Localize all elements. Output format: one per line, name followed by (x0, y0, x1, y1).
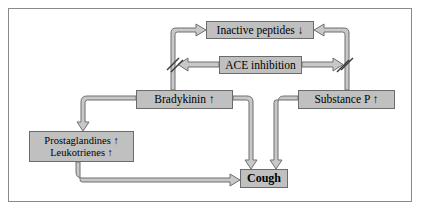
node-cough-label: Cough (247, 172, 281, 185)
edge-bradykinin-to-cough (233, 96, 257, 169)
node-prostaglandines-label-line2: Leukotrienes ↑ (50, 147, 113, 159)
edge-ace-to-substance-p (302, 58, 343, 71)
edge-ace-to-bradykinin (178, 58, 219, 71)
node-inactive-peptides[interactable]: Inactive peptides ↓ (206, 21, 314, 39)
diagram-canvas: Inactive peptides ↓ ACE inhibition Brady… (0, 0, 428, 214)
node-ace-inhibition[interactable]: ACE inhibition (219, 56, 302, 74)
node-prostaglandines-label-line1: Prostaglandines ↑ (44, 135, 118, 147)
edge-bradykinin-to-prostaglandines (77, 96, 136, 131)
edge-prostaglandines-to-cough (76, 162, 240, 186)
node-substance-p-label: Substance P ↑ (314, 93, 378, 106)
edge-substance-p-to-cough (270, 96, 298, 169)
node-bradykinin-label: Bradykinin ↑ (154, 93, 214, 106)
node-ace-inhibition-label: ACE inhibition (225, 59, 296, 72)
node-prostaglandines[interactable]: Prostaglandines ↑ Leukotrienes ↑ (29, 131, 134, 162)
node-substance-p[interactable]: Substance P ↑ (298, 90, 395, 109)
edge-substance-p-to-inactive-peptides (314, 24, 349, 90)
node-inactive-peptides-label: Inactive peptides ↓ (217, 24, 304, 37)
edge-bradykinin-to-inactive-peptides (171, 24, 206, 90)
node-cough[interactable]: Cough (240, 169, 288, 188)
node-bradykinin[interactable]: Bradykinin ↑ (136, 90, 233, 109)
